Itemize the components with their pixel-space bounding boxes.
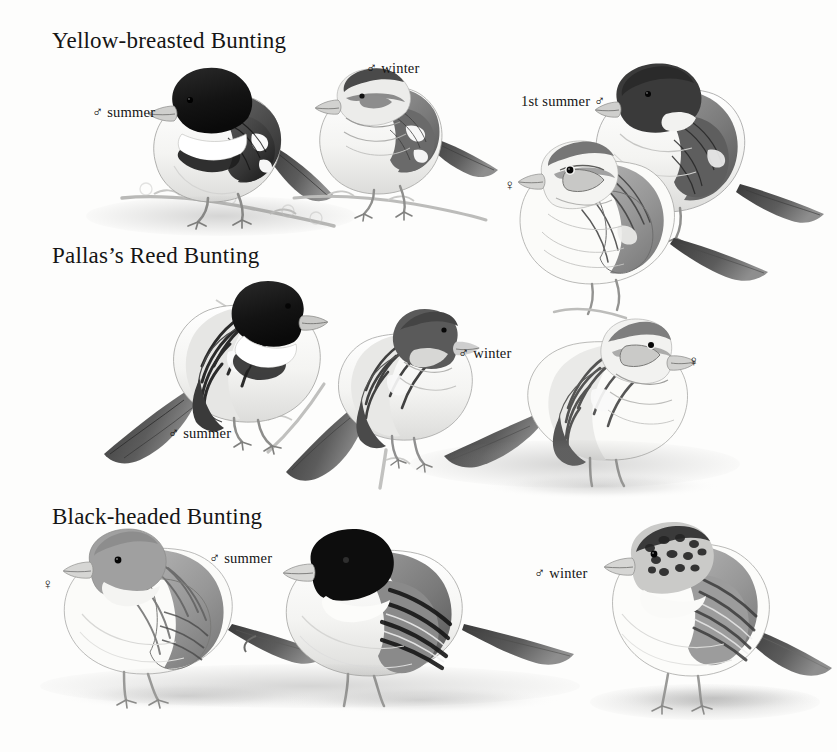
caption-ybb-male-winter: ♂ winter [366,60,420,77]
caption-ybb-1st-summer-male: 1st summer ♂ [521,93,606,110]
caption-ybb-male-summer: ♂ summer [92,104,155,121]
caption-text: summer [224,550,272,566]
male-symbol: ♂ [534,565,545,581]
species-heading-black-headed-bunting: Black-headed Bunting [52,504,262,530]
male-symbol: ♂ [209,550,220,566]
caption-prb-female: ♀ [688,352,699,370]
female-symbol: ♀ [42,576,53,592]
species-heading-pallass-reed-bunting: Pallas’s Reed Bunting [52,243,259,269]
caption-text: 1st summer [521,93,590,109]
caption-bhb-male-summer: ♂ summer [209,550,272,567]
caption-bhb-female: ♀ [42,575,53,593]
caption-text: winter [473,345,511,361]
caption-ybb-female: ♀ [504,176,515,194]
female-symbol: ♀ [504,177,515,193]
caption-prb-male-summer: ♂ summer [168,425,231,442]
male-symbol: ♂ [92,104,103,120]
male-symbol: ♂ [366,60,377,76]
male-symbol: ♂ [458,345,469,361]
caption-text: summer [183,425,231,441]
female-symbol: ♀ [688,353,699,369]
male-symbol: ♂ [168,425,179,441]
bird-figure-prb-female [440,310,730,500]
bird-figure-bhb-male-summer [250,532,580,722]
bird-figure-bhb-male-winter [594,518,837,718]
male-symbol: ♂ [594,93,605,109]
caption-bhb-male-winter: ♂ winter [534,565,588,582]
caption-text: winter [549,565,587,581]
field-guide-plate: Yellow-breasted Bunting Pallas’s Reed Bu… [0,0,837,752]
caption-prb-male-winter: ♂ winter [458,345,512,362]
caption-text: summer [107,104,155,120]
bird-figure-ybb-female [496,140,776,320]
caption-text: winter [381,60,419,76]
